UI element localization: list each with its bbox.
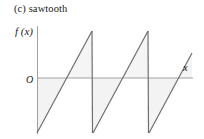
sawtooth-plot (0, 0, 204, 139)
origin-label: O (26, 74, 33, 85)
curve-fill-region (37, 31, 192, 133)
sawtooth-figure: (c) sawtooth f (x) x O (0, 0, 204, 139)
x-axis-label: x (183, 62, 188, 73)
y-axis-label: f (x) (15, 25, 33, 37)
